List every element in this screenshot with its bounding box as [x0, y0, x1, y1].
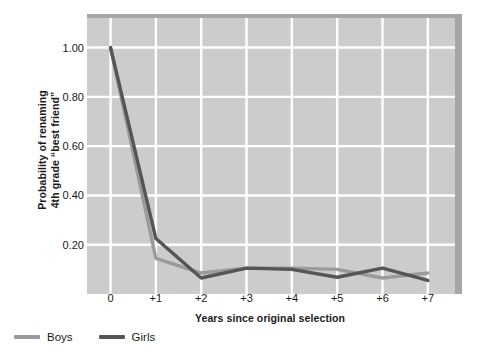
legend-swatch-girls	[99, 335, 125, 339]
x-axis-tick-label: +5	[331, 292, 344, 304]
x-axis-tick-label: +2	[195, 292, 208, 304]
legend-item-boys[interactable]: Boys	[14, 331, 73, 343]
x-axis-tick-label: +3	[240, 292, 253, 304]
y-axis-title-line-1: Probability of renaming	[36, 50, 49, 250]
y-axis-title: Probability of renaming 4th grade “best …	[36, 50, 62, 250]
chart-legend: BoysGirls	[14, 331, 155, 343]
legend-label-girls: Girls	[132, 331, 156, 343]
legend-label-boys: Boys	[47, 331, 73, 343]
x-axis-tick-label: +4	[286, 292, 299, 304]
x-axis-tick-label: 0	[108, 292, 114, 304]
legend-swatch-boys	[14, 335, 40, 339]
x-axis-title: Years since original selection	[87, 312, 453, 324]
x-axis-tick-label: +7	[422, 292, 435, 304]
panel-shadow-right	[455, 14, 462, 294]
x-axis-tick-label: +6	[376, 292, 389, 304]
chart-figure: 1.000.800.600.400.20 0+1+2+3+4+5+6+7 Pro…	[0, 0, 486, 354]
x-axis-tick-label: +1	[150, 292, 163, 304]
y-axis-title-line-2: 4th grade “best friend”	[49, 50, 62, 250]
plot-panel-background	[87, 18, 455, 294]
legend-item-girls[interactable]: Girls	[99, 331, 156, 343]
